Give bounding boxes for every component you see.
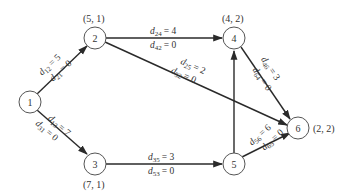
- edge-label-3-5: d35= 3 d53= 0: [148, 152, 174, 178]
- svg-text:6: 6: [296, 123, 301, 134]
- edge-label-1-2: d12= 5 d21= 0: [36, 49, 75, 87]
- node-3: 3 (7, 1): [83, 153, 106, 191]
- edge-label-2-6: d25= 2 d52= 0: [169, 54, 208, 89]
- node-5: 5: [223, 153, 245, 175]
- node-2-coord: (5, 1): [83, 13, 105, 25]
- svg-text:5: 5: [232, 159, 237, 170]
- node-2: 2 (5, 1): [83, 13, 106, 49]
- edge-label-1-3: d13= 7 d31= 0: [32, 109, 72, 148]
- node-4-coord: (4, 2): [222, 13, 244, 25]
- node-3-coord: (7, 1): [83, 179, 105, 191]
- edge-label-2-4: d24= 4 d42= 0: [150, 26, 176, 52]
- node-1: 1: [19, 91, 41, 113]
- network-diagram: d12= 5 d21= 0 d13= 7 d31= 0 d24= 4 d42= …: [0, 0, 358, 195]
- node-4: 4 (4, 2): [222, 13, 245, 49]
- node-6-coord: (2, 2): [313, 123, 335, 135]
- node-6: 6 (2, 2): [287, 117, 335, 139]
- edge-label-4-6: d46= 3 d64= 0: [247, 55, 285, 94]
- svg-text:3: 3: [93, 159, 98, 170]
- svg-text:4: 4: [232, 33, 237, 44]
- svg-text:d35= 3: d35= 3: [148, 152, 174, 164]
- svg-text:2: 2: [93, 33, 98, 44]
- svg-text:d42= 0: d42= 0: [150, 40, 176, 52]
- svg-text:1: 1: [28, 97, 33, 108]
- svg-text:d53= 0: d53= 0: [148, 166, 174, 178]
- svg-text:d24= 4: d24= 4: [150, 26, 176, 38]
